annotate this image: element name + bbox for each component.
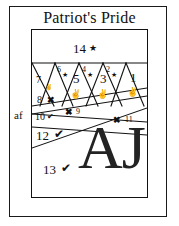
design-box: 14 ★ 1 ✌ 2 ★ 3 ✌ 4 ★ 5 ✌ 6 ★ 7 ✌ 8 ✖ 9 ✖…: [31, 29, 148, 198]
cross-icon: ✖: [47, 96, 55, 105]
hand-icon: ✌: [97, 90, 108, 99]
piece-10-number: 10: [35, 112, 45, 122]
check-icon: ✔: [47, 113, 54, 121]
piece-1-number: 1: [130, 71, 137, 84]
quilt-block-diagram: Patriot's Pride af: [0, 0, 179, 226]
hand-icon: ✌: [127, 88, 138, 97]
piece-7-number: 7: [36, 75, 41, 85]
hand-icon: ✌: [45, 84, 52, 90]
piece-12-number: 12: [36, 129, 49, 142]
piece-14-number: 14: [73, 42, 86, 55]
piece-8-number: 8: [37, 95, 42, 105]
piece-6-number: 6: [57, 66, 61, 74]
monogram-aj: AJ: [78, 116, 145, 178]
margin-note-af: af: [14, 109, 23, 121]
check-icon: ✔: [61, 162, 71, 174]
piece-3-number: 3: [100, 72, 107, 85]
hand-icon: ✌: [70, 90, 81, 99]
check-icon: ✔: [54, 128, 64, 140]
piece-2-number: 2: [106, 66, 110, 74]
page-title: Patriot's Pride: [0, 9, 179, 27]
star-icon: ★: [87, 72, 93, 79]
star-icon: ★: [111, 72, 117, 79]
star-icon: ★: [89, 44, 97, 53]
piece-13-number: 13: [43, 163, 56, 176]
star-icon: ★: [62, 72, 68, 79]
cross-icon: ✖: [65, 108, 73, 117]
piece-4-number: 4: [82, 66, 86, 74]
piece-5-number: 5: [73, 72, 80, 85]
